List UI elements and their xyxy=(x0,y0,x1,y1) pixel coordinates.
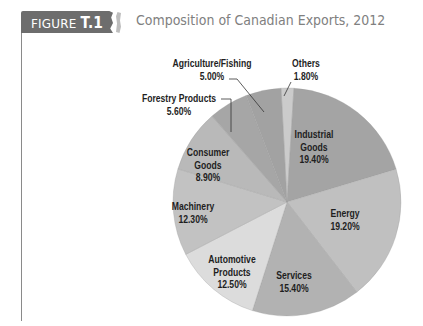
label-industrial-goods: Industrial Goods 19.40% xyxy=(295,128,334,166)
label-value: 5.60% xyxy=(142,105,216,118)
label-text: Industrial xyxy=(295,128,334,141)
label-value: 12.30% xyxy=(172,213,215,226)
label-automotive-products: Automotive Products 12.50% xyxy=(208,253,255,291)
label-value: 19.20% xyxy=(330,220,359,233)
label-agriculture-fishing: Agriculture/Fishing 5.00% xyxy=(173,57,252,82)
label-text: Forestry Products xyxy=(142,92,216,105)
label-value: 12.50% xyxy=(208,278,255,291)
label-value: 8.90% xyxy=(187,171,230,184)
label-value: 5.00% xyxy=(173,70,252,83)
label-text: Others xyxy=(292,57,320,70)
label-text: Energy xyxy=(330,207,359,220)
label-value: 1.80% xyxy=(292,70,320,83)
label-energy: Energy 19.20% xyxy=(330,207,359,232)
label-others: Others 1.80% xyxy=(292,57,320,82)
label-consumer-goods: Consumer Goods 8.90% xyxy=(187,146,230,184)
label-text: Goods xyxy=(295,141,334,154)
label-text: Machinery xyxy=(172,200,215,213)
label-text: Consumer xyxy=(187,146,230,159)
label-value: 15.40% xyxy=(276,282,311,295)
label-forestry-products: Forestry Products 5.60% xyxy=(142,92,216,117)
label-services: Services 15.40% xyxy=(276,269,311,294)
label-text: Agriculture/Fishing xyxy=(173,57,252,70)
label-value: 19.40% xyxy=(295,153,334,166)
label-text: Services xyxy=(276,269,311,282)
label-text: Automotive xyxy=(208,253,255,266)
label-text: Products xyxy=(208,266,255,279)
label-machinery: Machinery 12.30% xyxy=(172,200,215,225)
label-text: Goods xyxy=(187,159,230,172)
